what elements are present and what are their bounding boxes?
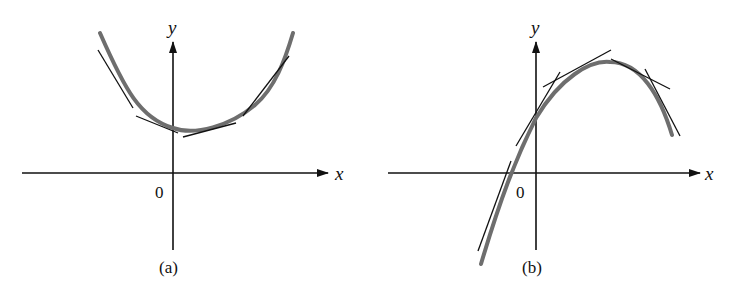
panel-caption: (b): [522, 258, 542, 277]
panel-b: y x 0 (b): [388, 17, 714, 277]
x-axis-label: x: [704, 163, 714, 184]
x-axis-label: x: [334, 163, 344, 184]
origin-label: 0: [155, 183, 164, 202]
tangent-lines: [478, 50, 680, 251]
origin-label: 0: [516, 183, 525, 202]
tangent-lines: [98, 50, 289, 137]
y-axis-label: y: [166, 17, 177, 38]
concave-up-curve: [100, 33, 293, 131]
panel-a: y x 0 (a): [22, 17, 344, 277]
panel-caption: (a): [159, 258, 178, 277]
y-axis-label: y: [529, 17, 540, 38]
concavity-figure: y x 0 (a) y x 0 (b): [0, 0, 735, 293]
